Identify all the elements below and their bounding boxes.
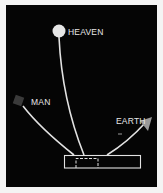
heaven-label: HEAVEN	[68, 28, 104, 37]
base-dashed-inner-box	[76, 159, 98, 169]
earth-label: EARTH	[116, 117, 146, 126]
heaven-connector-line	[59, 37, 84, 155]
man-connector-line	[23, 106, 74, 155]
man-square-icon	[13, 95, 25, 107]
heaven-circle-icon	[53, 25, 66, 38]
earth-connector-line	[107, 122, 146, 155]
man-label: MAN	[31, 98, 51, 107]
